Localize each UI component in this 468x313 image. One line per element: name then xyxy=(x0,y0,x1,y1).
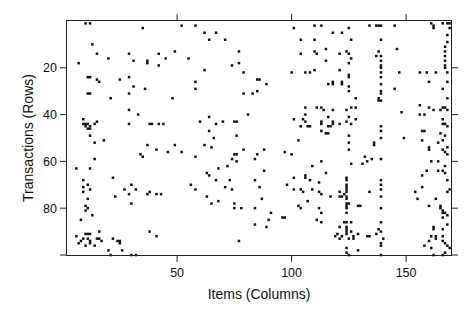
data-point xyxy=(256,153,259,156)
data-point xyxy=(132,60,135,63)
data-point xyxy=(446,97,449,100)
data-point xyxy=(444,251,447,254)
data-point xyxy=(338,53,341,56)
data-point xyxy=(180,151,183,154)
data-point xyxy=(327,116,330,119)
data-point xyxy=(432,228,435,231)
data-point xyxy=(82,118,85,121)
data-point xyxy=(233,120,236,123)
data-point xyxy=(325,132,328,135)
data-point xyxy=(435,71,438,74)
data-point xyxy=(313,24,316,27)
data-point xyxy=(96,53,99,56)
data-point xyxy=(430,160,433,163)
x-tick-label: 50 xyxy=(170,266,184,280)
x-tick-label: 100 xyxy=(281,266,302,280)
data-point xyxy=(325,172,328,175)
data-point xyxy=(300,188,303,191)
data-point xyxy=(297,139,300,142)
data-point xyxy=(87,233,90,236)
data-point xyxy=(320,24,323,27)
data-point xyxy=(284,216,287,219)
data-point xyxy=(267,219,270,222)
data-point xyxy=(222,120,225,123)
data-point xyxy=(368,24,371,27)
data-point xyxy=(84,22,87,25)
data-point xyxy=(87,198,90,201)
data-point xyxy=(380,60,383,63)
data-point xyxy=(380,90,383,93)
data-point xyxy=(341,83,344,86)
data-point xyxy=(338,191,341,194)
data-point xyxy=(146,62,149,65)
data-point xyxy=(309,179,312,182)
data-point xyxy=(302,191,305,194)
data-point xyxy=(87,184,90,187)
data-point xyxy=(380,179,383,182)
data-point xyxy=(75,167,78,170)
data-point xyxy=(75,235,78,238)
data-point xyxy=(320,123,323,126)
data-point xyxy=(350,163,353,166)
data-point xyxy=(309,71,312,74)
data-point xyxy=(348,85,351,88)
data-point xyxy=(446,109,449,112)
data-point xyxy=(84,209,87,212)
data-point xyxy=(293,27,296,30)
data-point xyxy=(87,207,90,210)
data-point xyxy=(194,188,197,191)
data-point xyxy=(247,113,250,116)
data-point xyxy=(435,237,438,240)
data-point xyxy=(446,41,449,44)
data-point xyxy=(89,242,92,245)
data-point xyxy=(345,109,348,112)
data-point xyxy=(322,109,325,112)
data-point xyxy=(444,134,447,137)
data-point xyxy=(194,81,197,84)
data-point xyxy=(446,125,449,128)
data-point xyxy=(155,235,158,238)
data-point xyxy=(361,163,364,166)
data-point xyxy=(332,123,335,126)
data-point xyxy=(355,118,358,121)
data-point xyxy=(77,62,80,65)
data-point xyxy=(286,184,289,187)
data-point xyxy=(107,57,110,60)
data-point xyxy=(313,39,316,42)
data-point xyxy=(302,118,305,121)
data-point xyxy=(348,74,351,77)
data-point xyxy=(380,64,383,67)
data-point xyxy=(435,198,438,201)
data-point xyxy=(100,240,103,243)
data-point xyxy=(432,226,435,229)
data-point xyxy=(439,205,442,208)
data-point xyxy=(203,32,206,35)
data-point xyxy=(393,24,396,27)
data-point xyxy=(155,193,158,196)
data-point xyxy=(98,230,101,233)
points-layer xyxy=(75,22,451,256)
data-point xyxy=(442,148,445,151)
plot-frame xyxy=(67,21,452,256)
data-point xyxy=(206,195,209,198)
data-point xyxy=(345,205,348,208)
data-point xyxy=(373,141,376,144)
data-point xyxy=(254,223,257,226)
data-point xyxy=(103,139,106,142)
data-point xyxy=(442,170,445,173)
data-point xyxy=(357,233,360,236)
data-point xyxy=(380,184,383,187)
data-point xyxy=(442,240,445,243)
data-point xyxy=(345,186,348,189)
data-point xyxy=(132,85,135,88)
data-point xyxy=(348,90,351,93)
data-point xyxy=(304,106,307,109)
data-point xyxy=(364,156,367,159)
data-point xyxy=(416,198,419,201)
data-point xyxy=(91,43,94,46)
data-point xyxy=(84,125,87,128)
data-point xyxy=(421,174,424,177)
data-point xyxy=(380,67,383,70)
data-point xyxy=(430,235,433,238)
data-point xyxy=(444,50,447,53)
